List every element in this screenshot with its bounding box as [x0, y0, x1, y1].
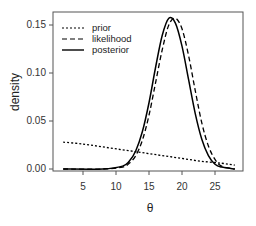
x-tick-label: 20 — [176, 181, 188, 192]
series-layer — [63, 17, 235, 169]
density-chart: 0.00 0.05 0.10 0.15 5 10 15 20 25 θ dens… — [0, 0, 256, 226]
legend-label-likelihood: likelihood — [92, 33, 132, 44]
x-tick-label: 25 — [209, 181, 221, 192]
y-tick-label: 0.15 — [27, 19, 47, 30]
y-axis — [49, 25, 53, 169]
legend-label-prior: prior — [92, 22, 111, 33]
legend-label-posterior: posterior — [92, 44, 129, 55]
legend: prior likelihood posterior — [62, 22, 132, 55]
y-tick-label: 0.05 — [27, 115, 47, 126]
likelihood-line — [63, 18, 235, 169]
y-tick-label: 0.10 — [27, 67, 47, 78]
x-axis-label: θ — [147, 201, 154, 215]
x-tick-label: 15 — [143, 181, 155, 192]
plot-frame — [53, 12, 243, 171]
x-axis — [83, 171, 215, 175]
y-axis-label: density — [8, 73, 22, 111]
x-tick-label: 5 — [80, 181, 86, 192]
y-tick-label: 0.00 — [27, 163, 47, 174]
x-tick-label: 10 — [110, 181, 122, 192]
prior-line — [63, 142, 235, 165]
